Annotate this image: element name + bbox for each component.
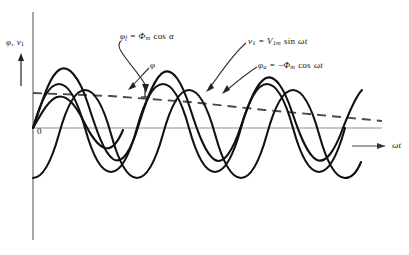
label-phi-a: φa=−Φmcosωt <box>258 60 323 70</box>
label-phi-a-argument: ωt <box>314 60 323 70</box>
leader-v1 <box>206 43 246 92</box>
leader-phi-a <box>222 67 257 94</box>
x-axis-label: ωt <box>392 140 401 150</box>
label-v1-function: sin <box>284 36 295 46</box>
label-phi-a-equals: = <box>270 60 275 70</box>
label-phi-f-argument: α <box>169 31 174 41</box>
label-v1: v1=V1msinωt <box>248 36 307 46</box>
y-axis-label-voltage-sub: 1 <box>21 40 24 47</box>
x-axis-arrow-icon <box>352 143 385 149</box>
curve-phi-a-cosine <box>33 90 361 178</box>
waveform-plot-svg <box>0 0 409 255</box>
label-phi-f: φf=Φmcosα <box>120 31 174 41</box>
label-v1-argument: ωt <box>298 36 307 46</box>
label-phi-f-subscript: f <box>125 34 127 41</box>
label-v1-equals: = <box>259 36 264 46</box>
label-phi-symbol: φ <box>150 60 155 70</box>
label-phi-f-function: cos <box>153 31 166 41</box>
label-v1-amp-subscript: 1m <box>273 39 281 46</box>
y-axis-label-comma: , <box>11 37 13 47</box>
waveform-figure: φf=Φmcosα φ v1=V1msinωt φa=−Φmcosωt φ,v1… <box>0 0 409 255</box>
y-axis-label: φ,v1 <box>6 37 24 47</box>
origin-label: 0 <box>37 126 42 136</box>
label-phi-a-amp-subscript: m <box>290 63 295 70</box>
label-phi-f-amplitude: Φ <box>138 31 145 41</box>
y-axis-arrow-icon <box>18 53 24 86</box>
label-phi-a-function: cos <box>298 60 311 70</box>
x-axis-label-t: t <box>399 140 402 150</box>
label-phi-f-amp-subscript: m <box>146 34 151 41</box>
label-v1-subscript: 1 <box>252 39 255 46</box>
label-phi: φ <box>150 60 155 70</box>
label-phi-a-subscript: a <box>263 63 266 70</box>
label-phi-f-equals: = <box>130 31 135 41</box>
